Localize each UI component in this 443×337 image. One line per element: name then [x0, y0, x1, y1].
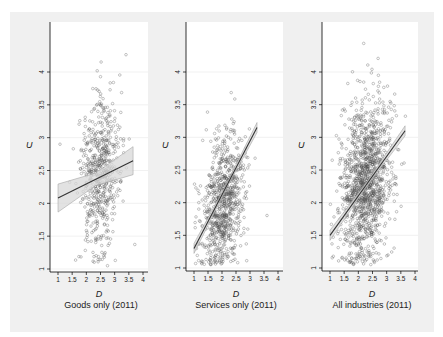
svg-text:1: 1: [56, 276, 60, 283]
svg-text:3: 3: [248, 275, 252, 282]
panel-2-ylabel: U: [162, 140, 169, 150]
svg-text:4: 4: [413, 275, 417, 282]
svg-text:1.5: 1.5: [203, 275, 212, 282]
panel-2-xlabel: D: [226, 289, 246, 299]
svg-text:2.5: 2.5: [38, 166, 45, 175]
svg-text:3.5: 3.5: [124, 276, 133, 283]
panel-2: 11.522.533.5411.522.533.54: [174, 22, 283, 282]
panel-3-xlabel: D: [362, 289, 382, 299]
svg-text:1.5: 1.5: [38, 231, 45, 240]
svg-text:2.5: 2.5: [368, 275, 377, 282]
svg-text:3.5: 3.5: [396, 275, 405, 282]
svg-text:1.5: 1.5: [340, 275, 349, 282]
svg-text:3: 3: [385, 275, 389, 282]
panel-1-xlabel: D: [89, 289, 109, 299]
svg-text:1: 1: [38, 267, 45, 271]
svg-text:3: 3: [113, 276, 117, 283]
svg-text:3: 3: [310, 135, 317, 139]
svg-text:2: 2: [310, 200, 317, 204]
svg-text:1: 1: [174, 266, 181, 270]
svg-text:1: 1: [192, 275, 196, 282]
svg-text:1.5: 1.5: [68, 276, 77, 283]
svg-text:2: 2: [174, 200, 181, 204]
svg-text:4: 4: [141, 276, 145, 283]
svg-text:4: 4: [174, 70, 181, 74]
svg-text:2: 2: [220, 275, 224, 282]
svg-text:3: 3: [38, 135, 45, 139]
svg-text:1: 1: [310, 266, 317, 270]
svg-text:1.5: 1.5: [174, 230, 181, 239]
svg-text:2: 2: [85, 276, 89, 283]
svg-text:3.5: 3.5: [38, 100, 45, 109]
svg-text:3.5: 3.5: [259, 275, 268, 282]
svg-text:2: 2: [38, 201, 45, 205]
svg-text:2: 2: [357, 275, 361, 282]
scatter-figure: 11.522.533.5411.522.533.5411.522.533.541…: [0, 0, 443, 337]
panel-3: 11.522.533.5411.522.533.54: [310, 22, 418, 282]
svg-text:2.5: 2.5: [96, 276, 105, 283]
svg-text:2.5: 2.5: [310, 165, 317, 174]
svg-text:1.5: 1.5: [310, 230, 317, 239]
svg-text:3.5: 3.5: [174, 100, 181, 109]
svg-text:2.5: 2.5: [174, 165, 181, 174]
svg-text:3: 3: [174, 135, 181, 139]
panel-1: 11.522.533.5411.522.533.54: [38, 22, 148, 283]
panel-3-ylabel: U: [298, 140, 305, 150]
panel-3-caption: All industries (2011): [312, 300, 432, 310]
panel-1-ylabel: U: [26, 140, 33, 150]
svg-text:4: 4: [310, 70, 317, 74]
panel-1-caption: Goods only (2011): [41, 300, 161, 310]
svg-text:4: 4: [276, 275, 280, 282]
svg-text:1: 1: [328, 275, 332, 282]
panel-2-caption: Services only (2011): [176, 300, 296, 310]
svg-text:3.5: 3.5: [310, 100, 317, 109]
svg-text:4: 4: [38, 70, 45, 74]
svg-text:2.5: 2.5: [231, 275, 240, 282]
